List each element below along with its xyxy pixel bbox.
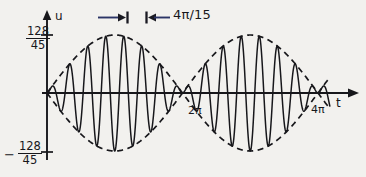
y-tick-positive-numerator: 128 bbox=[26, 26, 50, 39]
y-tick-negative-numerator: 128 bbox=[18, 141, 42, 154]
x-axis-tick-label-2pi: 2π bbox=[188, 105, 202, 116]
beat-waveform-figure: 128 45 − 128 45 u t 2π 4π 4π/15 bbox=[0, 0, 366, 177]
x-axis-arrowhead bbox=[348, 89, 359, 98]
y-axis-label: u bbox=[55, 10, 63, 22]
envelope-lower-curve bbox=[47, 93, 330, 151]
x-axis-tick-label-4pi: 4π bbox=[311, 104, 325, 115]
carrier-period-annotation-label: 4π/15 bbox=[173, 8, 211, 21]
waveform-plot-svg bbox=[0, 0, 366, 177]
period-dimension-markers bbox=[98, 12, 170, 24]
dimension-arrow-right-head bbox=[118, 14, 126, 22]
y-tick-negative-denominator: 45 bbox=[18, 154, 42, 167]
y-tick-negative-sign: − bbox=[4, 148, 15, 161]
y-axis-tick-label-negative: − 128 45 bbox=[4, 141, 42, 166]
y-tick-positive-denominator: 45 bbox=[26, 39, 50, 52]
envelope-upper-curve bbox=[47, 35, 330, 93]
x-axis-label: t bbox=[336, 97, 341, 109]
y-axis-tick-label-positive: 128 45 bbox=[26, 26, 50, 51]
y-axis-arrowhead bbox=[43, 10, 52, 20]
